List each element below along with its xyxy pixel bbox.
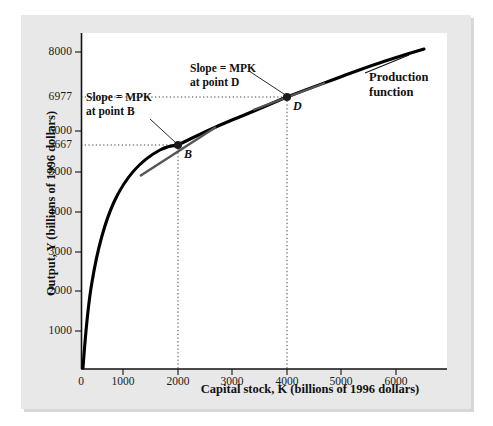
annotation-slope-d-line1: Slope = MPK — [190, 62, 256, 74]
production-function-figure: 8000 6977 6000 5667 5000 4000 3000 2000 … — [0, 0, 493, 426]
y-tick-label-8000: 8000 — [26, 45, 72, 57]
annotation-production-line2: function — [369, 85, 413, 99]
point-label-d: D — [293, 99, 302, 114]
annotation-slope-d: Slope = MPK at point D — [190, 62, 256, 89]
guide-lines-d — [81, 97, 287, 369]
tangent-segment-b — [140, 127, 216, 176]
y-tick-marks — [75, 52, 81, 331]
annotation-production-function: Production function — [369, 70, 429, 99]
annotation-slope-b-line2: at point B — [86, 105, 135, 117]
x-axis-title: Capital stock, K (billions of 1996 dolla… — [150, 382, 470, 397]
data-point-b — [174, 141, 182, 149]
point-label-b: B — [184, 147, 192, 162]
leader-line-b — [150, 119, 175, 142]
annotation-slope-d-line2: at point D — [190, 76, 239, 88]
x-tick-label-1000: 1000 — [93, 375, 153, 387]
data-point-d — [283, 93, 291, 101]
y-axis-title: Output, Y (billions of 1996 dollars) — [44, 79, 59, 329]
annotation-production-line1: Production — [369, 70, 429, 84]
annotation-slope-b-line1: Slope = MPK — [86, 91, 152, 103]
annotation-slope-b: Slope = MPK at point B — [86, 91, 152, 118]
